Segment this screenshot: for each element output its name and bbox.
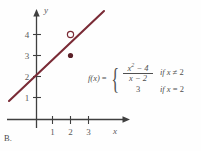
x-axis-label: x [112,126,117,136]
case2-if: if [160,84,165,94]
equals-sign: = [101,74,108,83]
case1-fraction: x2 − 4 x − 2 [123,62,153,83]
case-row-2: 3 if x = 2 [123,85,184,94]
y-axis-label: y [43,5,48,15]
case1-operator: ≠ [173,67,178,77]
y-tick-label-4: 4 [25,30,30,40]
filled-dot-point [68,53,73,58]
case1-numerator-rest: − 4 [136,63,148,73]
x-tick-label-2: 2 [68,127,73,137]
figure-panel: 4 3 2 1 1 2 3 y x f(x) = { x2 − 4 x − 2 [0,0,201,151]
case1-value: 2 [180,67,184,77]
case1-condition: if x ≠ 2 [153,68,184,77]
cases-list: x2 − 4 x − 2 if x ≠ 2 3 if x = 2 [123,62,184,94]
case1-numerator: x2 − 4 [123,62,153,72]
x-axis-arrowhead [123,116,131,122]
y-tick-label-1: 1 [25,93,30,103]
y-tick-label-3: 3 [25,51,30,61]
case1-numerator-exponent: 2 [131,62,134,68]
y-tick-label-2: 2 [25,72,30,82]
case2-value-num: 2 [180,84,184,94]
case2-value: 3 [123,85,153,94]
case2-operator: = [173,84,178,94]
y-axis-arrowhead [33,9,39,17]
open-circle-point [67,31,73,37]
case2-var: x [167,84,171,94]
case1-denominator: x − 2 [123,74,153,83]
case1-var: x [167,67,171,77]
x-tick-label-1: 1 [50,127,55,137]
function-name-label: f(x) [88,74,101,83]
left-brace: { [111,67,119,89]
case-row-1: x2 − 4 x − 2 if x ≠ 2 [123,62,184,83]
case1-if: if [160,67,165,77]
case2-condition: if x = 2 [153,85,184,94]
piecewise-formula: f(x) = { x2 − 4 x − 2 if x ≠ 2 3 if x = … [88,57,200,99]
x-tick-label-3: 3 [86,127,91,137]
panel-label: B. [4,133,12,143]
